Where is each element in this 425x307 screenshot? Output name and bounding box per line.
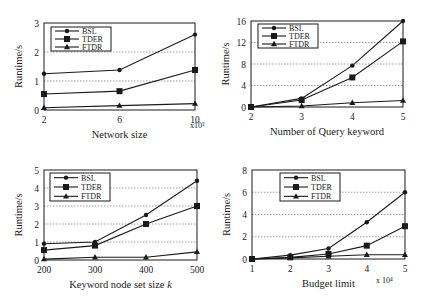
series-tder — [248, 38, 406, 110]
y-axis-label: Runtime/s — [13, 45, 24, 88]
bsl-diamond-marker — [117, 68, 121, 72]
legend: BSLTDERFTDR — [51, 27, 111, 52]
series-ftdr — [41, 249, 200, 262]
tder-square-marker — [194, 203, 200, 209]
legend-label: FTDR — [289, 40, 310, 49]
x-tick-label: 5 — [401, 112, 406, 122]
x-axis-multiplier: x 10⁴ — [376, 276, 393, 285]
y-tick-label: 3 — [34, 19, 39, 29]
bsl-diamond-marker — [42, 242, 46, 246]
y-tick-label: 3 — [34, 202, 39, 212]
legend-label: BSL — [311, 174, 326, 183]
y-tick-label: 2 — [242, 232, 247, 242]
chart-keyword-node-set: 012345200300400500Keyword node set size … — [13, 166, 204, 291]
charts-figure: 01232610Network sizeRuntime/sx10³BSLTDER… — [0, 0, 425, 307]
legend-tder-square-marker — [63, 184, 69, 190]
y-axis-label: Runtime/s — [13, 193, 24, 236]
tder-square-marker — [41, 91, 47, 97]
y-axis-label: Runtime/s — [221, 193, 232, 236]
legend-bsl-diamond-marker — [294, 175, 298, 179]
y-tick-label: 1 — [34, 77, 39, 87]
series-line — [251, 41, 403, 107]
y-tick-label: 4 — [241, 81, 246, 91]
x-tick-label: 4 — [350, 112, 355, 122]
series-ftdr — [41, 100, 198, 109]
ftdr-triangle-marker — [192, 100, 198, 105]
y-tick-label: 16 — [237, 17, 247, 27]
tder-square-marker — [192, 67, 198, 73]
x-axis-multiplier: x10³ — [190, 121, 205, 130]
y-tick-label: 0 — [242, 255, 247, 265]
x-axis-label: Budget limit — [302, 278, 355, 289]
tder-square-marker — [299, 97, 305, 103]
x-tick-label: 1 — [250, 264, 255, 274]
legend-tder-square-marker — [271, 33, 277, 39]
x-tick-label: 2 — [249, 112, 254, 122]
x-tick-label: 4 — [364, 264, 369, 274]
ftdr-triangle-marker — [400, 97, 406, 102]
x-axis-label: Number of Query keyword — [270, 126, 385, 137]
bsl-diamond-marker — [193, 32, 197, 36]
tder-square-marker — [402, 223, 408, 229]
x-tick-label: 6 — [117, 115, 122, 125]
y-tick-label: 4 — [34, 184, 39, 194]
legend-tder-square-marker — [293, 184, 299, 190]
legend-label: TDER — [311, 183, 333, 192]
x-tick-label: 300 — [88, 265, 103, 275]
tder-square-marker — [117, 88, 123, 94]
bsl-diamond-marker — [195, 179, 199, 183]
x-tick-label: 3 — [299, 112, 304, 122]
y-tick-label: 2 — [34, 48, 39, 58]
legend: BSLTDERFTDR — [258, 24, 318, 49]
x-axis-label: Network size — [92, 129, 148, 140]
tder-square-marker — [41, 247, 47, 253]
bsl-diamond-marker — [350, 63, 354, 67]
tder-square-marker — [400, 38, 406, 44]
tder-square-marker — [349, 74, 355, 80]
bsl-diamond-marker — [401, 19, 405, 23]
legend-bsl-diamond-marker — [272, 26, 276, 30]
legend-tder-square-marker — [64, 36, 70, 42]
ftdr-triangle-marker — [194, 249, 200, 254]
y-tick-label: 8 — [242, 166, 247, 176]
y-tick-label: 8 — [241, 60, 246, 70]
legend-label: FTDR — [81, 192, 102, 201]
series-line — [44, 252, 197, 259]
tder-square-marker — [143, 221, 149, 227]
x-tick-label: 500 — [190, 265, 205, 275]
y-tick-label: 2 — [34, 220, 39, 230]
legend-label: FTDR — [82, 43, 103, 52]
y-tick-label: 5 — [34, 166, 39, 176]
x-tick-label: 400 — [139, 265, 154, 275]
bsl-diamond-marker — [403, 190, 407, 194]
chart-query-keyword: 04812162345Number of Query keywordRuntim… — [220, 17, 406, 138]
y-tick-label: 6 — [242, 188, 247, 198]
tder-square-marker — [92, 243, 98, 249]
x-axis-label: Keyword node set size k — [69, 279, 172, 290]
y-tick-label: 12 — [237, 38, 247, 48]
legend: BSLTDERFTDR — [50, 173, 110, 201]
x-tick-label: 200 — [37, 265, 52, 275]
y-tick-label: 4 — [242, 210, 247, 220]
legend-label: BSL — [81, 174, 96, 183]
chart-budget-limit: 0246812345Budget limitRuntime/sx 10⁴BSLT… — [221, 166, 408, 290]
chart-network-size: 01232610Network sizeRuntime/sx10³BSLTDER… — [13, 19, 205, 141]
y-tick-label: 0 — [34, 106, 39, 116]
y-tick-label: 0 — [241, 103, 246, 113]
legend: BSLTDERFTDR — [280, 173, 340, 201]
x-tick-label: 2 — [288, 264, 293, 274]
x-tick-label: 2 — [42, 115, 47, 125]
bsl-diamond-marker — [365, 220, 369, 224]
y-tick-label: 1 — [34, 238, 39, 248]
bsl-diamond-marker — [144, 213, 148, 217]
legend-bsl-diamond-marker — [65, 29, 69, 33]
x-tick-label: 3 — [326, 264, 331, 274]
tder-square-marker — [364, 243, 370, 249]
x-tick-label: 5 — [403, 264, 408, 274]
bsl-diamond-marker — [326, 246, 330, 250]
legend-label: FTDR — [311, 192, 332, 201]
legend-bsl-diamond-marker — [64, 175, 68, 179]
y-axis-label: Runtime/s — [220, 42, 231, 85]
bsl-diamond-marker — [42, 72, 46, 76]
y-tick-label: 0 — [34, 256, 39, 266]
